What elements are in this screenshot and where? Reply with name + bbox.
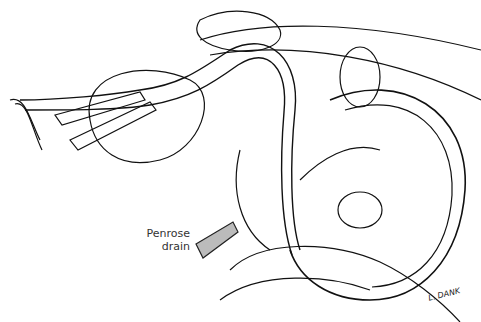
label-line-2: drain (140, 240, 190, 253)
line-drawing (0, 0, 481, 322)
penrose-drain-label: Penrose drain (140, 227, 190, 253)
label-line-1: Penrose (140, 227, 190, 240)
anatomical-illustration: Penrose drain L. DANK (0, 0, 481, 322)
